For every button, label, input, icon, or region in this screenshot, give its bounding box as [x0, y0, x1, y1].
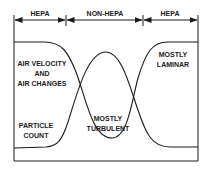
diagram-frame [14, 15, 198, 161]
svg-text:AIR CHANGES: AIR CHANGES [17, 80, 66, 87]
svg-text:AND: AND [34, 70, 49, 77]
svg-text:TURBULENT: TURBULENT [87, 125, 130, 132]
zone-label-hepa-left: HEPA [31, 10, 50, 17]
svg-text:AIR VELOCITY: AIR VELOCITY [17, 60, 66, 67]
svg-text:MOSTLY: MOSTLY [94, 115, 123, 122]
svg-text:COUNT: COUNT [24, 132, 50, 139]
svg-text:LAMINAR: LAMINAR [157, 61, 189, 68]
particle-count-label: PARTICLE COUNT [19, 122, 54, 139]
airflow-diagram: HEPA NON-HEPA HEPA AIR VELOCITY AND AIR … [0, 0, 207, 169]
mostly-turbulent-label: MOSTLY TURBULENT [87, 115, 130, 132]
zone-label-hepa-right: HEPA [161, 10, 180, 17]
zone-label-non-hepa: NON-HEPA [87, 10, 124, 17]
svg-text:PARTICLE: PARTICLE [19, 122, 54, 129]
svg-text:MOSTLY: MOSTLY [159, 51, 188, 58]
air-velocity-label: AIR VELOCITY AND AIR CHANGES [17, 60, 66, 87]
mostly-laminar-label: MOSTLY LAMINAR [157, 51, 189, 68]
